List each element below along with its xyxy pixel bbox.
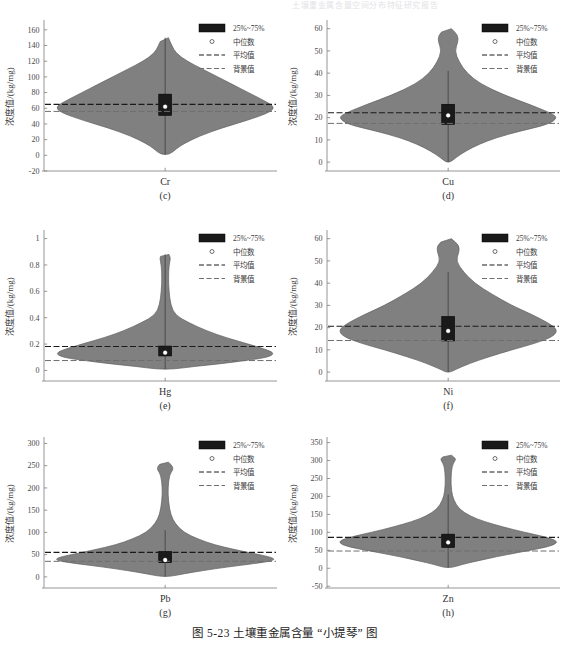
- panel-g-pb: 050100150200250300浓度值/(kg/mg)Pb(g)25%~75…: [0, 425, 285, 632]
- svg-text:100: 100: [311, 528, 323, 537]
- svg-text:150: 150: [311, 510, 323, 519]
- svg-text:浓度值/(kg/mg): 浓度值/(kg/mg): [287, 484, 298, 543]
- svg-text:浓度值/(kg/mg): 浓度值/(kg/mg): [4, 484, 15, 543]
- svg-text:0: 0: [319, 564, 323, 573]
- svg-text:平均值: 平均值: [233, 50, 255, 60]
- svg-text:250: 250: [311, 474, 323, 483]
- svg-text:140: 140: [28, 41, 40, 50]
- svg-text:25%~75%: 25%~75%: [233, 234, 265, 243]
- svg-text:0.4: 0.4: [30, 314, 40, 323]
- svg-text:20: 20: [315, 323, 323, 332]
- svg-text:40: 40: [315, 279, 323, 288]
- svg-text:浓度值/(kg/mg): 浓度值/(kg/mg): [287, 67, 298, 126]
- svg-text:平均值: 平均值: [516, 50, 538, 60]
- svg-text:背景值: 背景值: [516, 274, 538, 284]
- svg-text:Ni: Ni: [443, 386, 453, 397]
- svg-text:250: 250: [28, 461, 40, 470]
- svg-text:0.8: 0.8: [30, 261, 40, 270]
- violin-panel-grid: -20020406080100120140160浓度值/(kg/mg)Cr(c)…: [0, 8, 570, 628]
- svg-text:30: 30: [315, 301, 323, 310]
- svg-text:30: 30: [315, 91, 323, 100]
- figure-page: 土壤重金属含量空间分布特征研究报告 -200204060801001201401…: [0, 0, 570, 651]
- svg-text:Zn: Zn: [443, 593, 454, 604]
- svg-text:(d): (d): [442, 190, 454, 202]
- svg-text:25%~75%: 25%~75%: [233, 24, 265, 33]
- svg-text:中位数: 中位数: [516, 454, 538, 464]
- svg-text:25%~75%: 25%~75%: [516, 441, 548, 450]
- svg-text:60: 60: [315, 24, 323, 33]
- svg-text:50: 50: [32, 550, 40, 559]
- svg-text:80: 80: [32, 88, 40, 97]
- svg-text:25%~75%: 25%~75%: [516, 234, 548, 243]
- plot-hg: 00.20.40.60.81浓度值/(kg/mg)Hg(e)25%~75%中位数…: [0, 218, 285, 425]
- svg-text:背景值: 背景值: [516, 64, 538, 74]
- svg-text:平均值: 平均值: [516, 467, 538, 477]
- svg-text:Cr: Cr: [160, 176, 171, 187]
- svg-text:背景值: 背景值: [516, 481, 538, 491]
- svg-text:背景值: 背景值: [233, 481, 255, 491]
- plot-pb: 050100150200250300浓度值/(kg/mg)Pb(g)25%~75…: [0, 425, 285, 632]
- svg-text:60: 60: [32, 104, 40, 113]
- svg-text:20: 20: [315, 113, 323, 122]
- svg-text:100: 100: [28, 73, 40, 82]
- svg-text:25%~75%: 25%~75%: [516, 24, 548, 33]
- svg-text:300: 300: [28, 439, 40, 448]
- svg-text:300: 300: [311, 456, 323, 465]
- svg-text:中位数: 中位数: [516, 247, 538, 257]
- svg-text:-50: -50: [312, 582, 323, 591]
- svg-text:40: 40: [315, 69, 323, 78]
- panel-d-cu: 0102030405060浓度值/(kg/mg)Cu(d)25%~75%中位数平…: [283, 8, 568, 215]
- svg-text:Pb: Pb: [160, 593, 171, 604]
- svg-text:中位数: 中位数: [233, 247, 255, 257]
- svg-text:(c): (c): [160, 190, 171, 202]
- svg-text:平均值: 平均值: [233, 467, 255, 477]
- svg-text:200: 200: [311, 492, 323, 501]
- svg-text:背景值: 背景值: [233, 274, 255, 284]
- svg-text:(f): (f): [443, 400, 453, 412]
- plot-ni: 0102030405060浓度值/(kg/mg)Ni(f)25%~75%中位数平…: [283, 218, 568, 425]
- svg-text:0: 0: [36, 573, 40, 582]
- svg-text:0.2: 0.2: [30, 340, 40, 349]
- svg-text:0: 0: [36, 151, 40, 160]
- svg-text:中位数: 中位数: [233, 37, 255, 47]
- svg-text:10: 10: [315, 346, 323, 355]
- svg-text:50: 50: [315, 47, 323, 56]
- svg-text:-20: -20: [29, 167, 40, 176]
- svg-text:浓度值/(kg/mg): 浓度值/(kg/mg): [4, 277, 15, 336]
- svg-text:1: 1: [36, 234, 40, 243]
- svg-text:120: 120: [28, 57, 40, 66]
- svg-text:200: 200: [28, 484, 40, 493]
- svg-text:10: 10: [315, 136, 323, 145]
- panel-h-zn: -50050100150200250300350浓度值/(kg/mg)Zn(h)…: [283, 425, 568, 632]
- svg-text:160: 160: [28, 26, 40, 35]
- plot-zn: -50050100150200250300350浓度值/(kg/mg)Zn(h)…: [283, 425, 568, 632]
- svg-text:0: 0: [319, 158, 323, 167]
- svg-text:0.6: 0.6: [30, 287, 40, 296]
- plot-cu: 0102030405060浓度值/(kg/mg)Cu(d)25%~75%中位数平…: [283, 8, 568, 215]
- svg-text:25%~75%: 25%~75%: [233, 441, 265, 450]
- svg-text:背景值: 背景值: [233, 64, 255, 74]
- svg-text:平均值: 平均值: [516, 260, 538, 270]
- panel-e-hg: 00.20.40.60.81浓度值/(kg/mg)Hg(e)25%~75%中位数…: [0, 218, 285, 425]
- svg-text:20: 20: [32, 135, 40, 144]
- svg-text:浓度值/(kg/mg): 浓度值/(kg/mg): [287, 277, 298, 336]
- svg-text:(e): (e): [160, 400, 171, 412]
- svg-text:浓度值/(kg/mg): 浓度值/(kg/mg): [4, 67, 15, 126]
- svg-text:中位数: 中位数: [233, 454, 255, 464]
- svg-text:Hg: Hg: [159, 386, 171, 397]
- svg-text:100: 100: [28, 528, 40, 537]
- svg-text:50: 50: [315, 546, 323, 555]
- panel-c-cr: -20020406080100120140160浓度值/(kg/mg)Cr(c)…: [0, 8, 285, 215]
- svg-text:0: 0: [36, 366, 40, 375]
- svg-text:(h): (h): [442, 607, 454, 619]
- svg-text:40: 40: [32, 120, 40, 129]
- figure-caption: 图 5-23 土壤重金属含量 “小提琴” 图: [0, 624, 570, 640]
- svg-text:150: 150: [28, 506, 40, 515]
- svg-text:中位数: 中位数: [516, 37, 538, 47]
- panel-f-ni: 0102030405060浓度值/(kg/mg)Ni(f)25%~75%中位数平…: [283, 218, 568, 425]
- svg-text:0: 0: [319, 368, 323, 377]
- svg-text:(g): (g): [159, 607, 171, 619]
- svg-text:350: 350: [311, 438, 323, 447]
- svg-text:60: 60: [315, 234, 323, 243]
- svg-text:50: 50: [315, 257, 323, 266]
